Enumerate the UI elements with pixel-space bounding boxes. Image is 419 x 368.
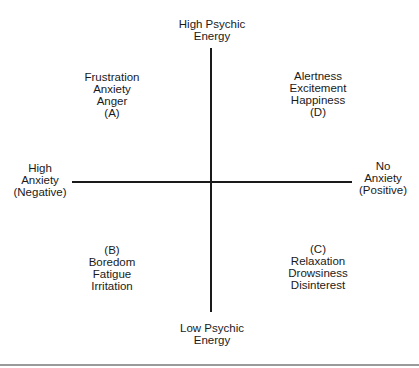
quadrant-b-line: Fatigue — [60, 268, 164, 280]
quadrant-b-line: Irritation — [60, 280, 164, 292]
right-label-line: No — [350, 160, 416, 172]
quadrant-c-line: Relaxation — [266, 255, 370, 267]
quadrant-c-line: Disinterest — [266, 279, 370, 291]
quadrant-d: Alertness Excitement Happiness (D) — [266, 70, 370, 118]
right-label-line: (Positive) — [350, 184, 416, 196]
bottom-label-line1: Low Psychic — [160, 322, 264, 334]
bottom-label-line2: Energy — [160, 334, 264, 346]
quadrant-b-line: (B) — [60, 244, 164, 256]
quadrant-b-line: Boredom — [60, 256, 164, 268]
horizontal-axis — [72, 181, 352, 183]
quadrant-a-line: (A) — [60, 107, 164, 119]
quadrant-b: (B) Boredom Fatigue Irritation — [60, 244, 164, 292]
quadrant-c: (C) Relaxation Drowsiness Disinterest — [266, 243, 370, 291]
left-label-line: Anxiety — [4, 174, 76, 186]
vertical-axis — [210, 48, 212, 312]
bottom-rule — [0, 364, 419, 366]
quadrant-d-line: (D) — [266, 106, 370, 118]
quadrant-a: Frustration Anxiety Anger (A) — [60, 71, 164, 119]
right-axis-label: No Anxiety (Positive) — [350, 160, 416, 196]
quadrant-c-line: Drowsiness — [266, 267, 370, 279]
left-label-line: High — [4, 162, 76, 174]
top-label-line1: High Psychic — [160, 18, 264, 30]
left-axis-label: High Anxiety (Negative) — [4, 162, 76, 198]
top-label-line2: Energy — [160, 30, 264, 42]
quadrant-d-line: Alertness — [266, 70, 370, 82]
left-label-line: (Negative) — [4, 186, 76, 198]
quadrant-c-line: (C) — [266, 243, 370, 255]
quadrant-a-line: Anxiety — [60, 83, 164, 95]
quadrant-d-line: Excitement — [266, 82, 370, 94]
bottom-axis-label: Low Psychic Energy — [160, 322, 264, 346]
quadrant-a-line: Anger — [60, 95, 164, 107]
top-axis-label: High Psychic Energy — [160, 18, 264, 42]
quadrant-a-line: Frustration — [60, 71, 164, 83]
right-label-line: Anxiety — [350, 172, 416, 184]
quadrant-d-line: Happiness — [266, 94, 370, 106]
